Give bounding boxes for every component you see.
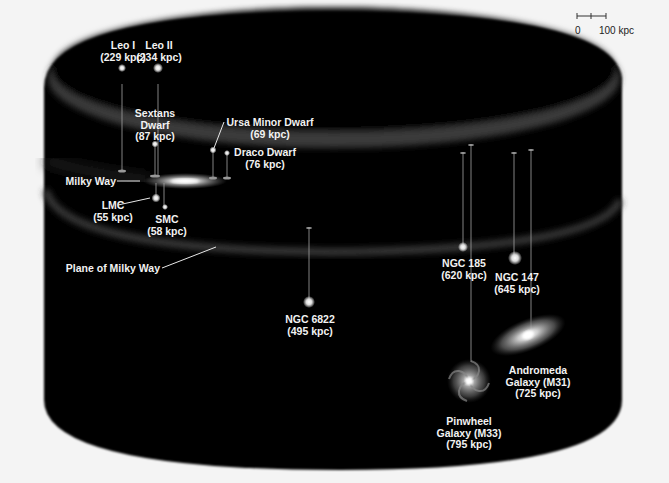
label-name: NGC 185 <box>436 258 492 270</box>
label-name: NGC 147 <box>489 272 545 284</box>
label-distance: (69 kpc) <box>222 129 318 141</box>
label-draco-dwarf: Draco Dwarf (76 kpc) <box>232 147 298 170</box>
local-group-diagram: 0 100 kpc Leo I (229 kpc) Leo II (234 kp… <box>0 0 669 483</box>
label-distance: (495 kpc) <box>280 326 340 338</box>
label-distance: (620 kpc) <box>436 270 492 282</box>
label-name: Milky Way <box>54 176 116 188</box>
label-pinwheel-galaxy: Pinwheel Galaxy (M33) (795 kpc) <box>433 416 505 451</box>
label-smc: SMC (58 kpc) <box>145 214 189 237</box>
label-ngc-185: NGC 185 (620 kpc) <box>436 258 492 281</box>
label-distance: (87 kpc) <box>127 131 183 143</box>
label-distance: (725 kpc) <box>502 388 574 400</box>
pinwheel-galaxy <box>447 359 491 403</box>
label-distance: (645 kpc) <box>489 284 545 296</box>
cylinder-graphic <box>0 0 669 483</box>
scale-max: 100 kpc <box>599 25 634 36</box>
label-name: Sextans <box>127 108 183 120</box>
label-ngc-6822: NGC 6822 (495 kpc) <box>280 314 340 337</box>
label-lmc: LMC (55 kpc) <box>93 200 133 223</box>
label-name: Ursa Minor Dwarf <box>222 117 318 129</box>
label-sextans-dwarf: Sextans Dwarf (87 kpc) <box>127 108 183 143</box>
label-name: Plane of Milky Way <box>60 263 160 275</box>
label-name: NGC 6822 <box>280 314 340 326</box>
label-name: Leo II <box>131 40 187 52</box>
label-ursa-minor-dwarf: Ursa Minor Dwarf (69 kpc) <box>222 117 318 140</box>
label-milky-way: Milky Way <box>54 176 116 188</box>
label-name: LMC <box>93 200 133 212</box>
scale-legend: 0 100 kpc <box>575 10 645 40</box>
label-name: Andromeda <box>502 365 574 377</box>
label-leo-ii: Leo II (234 kpc) <box>131 40 187 63</box>
label-plane-of-milky-way: Plane of Milky Way <box>60 263 160 275</box>
label-distance: (234 kpc) <box>131 52 187 64</box>
scale-zero: 0 <box>575 25 581 36</box>
label-distance: (55 kpc) <box>93 212 133 224</box>
label-name: SMC <box>145 214 189 226</box>
label-distance: (795 kpc) <box>433 439 505 451</box>
label-distance: (58 kpc) <box>145 226 189 238</box>
label-distance: (76 kpc) <box>232 159 298 171</box>
label-ngc-147: NGC 147 (645 kpc) <box>489 272 545 295</box>
label-andromeda-galaxy: Andromeda Galaxy (M31) (725 kpc) <box>502 365 574 400</box>
label-name: Draco Dwarf <box>232 147 298 159</box>
label-name: Pinwheel <box>433 416 505 428</box>
